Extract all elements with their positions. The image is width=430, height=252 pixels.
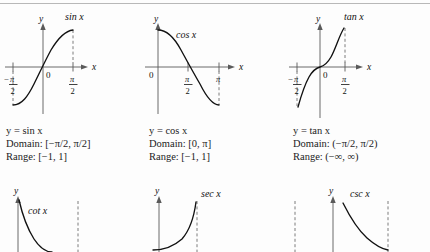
tan-tick-pos-numerator: π: [342, 74, 347, 84]
tan-tick-neg-denominator: 2: [295, 86, 299, 96]
caption-sin-range: Range: [−1, 1]: [6, 150, 143, 163]
figure-cell-tan: y x tan x 0 − π 2 π 2 y = tan x Domain: …: [287, 6, 430, 164]
figure-cell-sec: y sec x: [143, 183, 286, 252]
figure-cell-cot: y cot x: [0, 183, 143, 252]
figure-cell-csc: y csc x: [287, 183, 430, 252]
cos-tick-halfpi-numerator: π: [185, 74, 190, 84]
cos-y-axis-label: y: [153, 14, 159, 24]
plot-cot-svg: y cot x: [0, 183, 143, 252]
caption-cos-equation: y = cos x: [149, 124, 286, 137]
tan-origin-label: 0: [323, 70, 328, 80]
plot-sin: y x sin x 0 − π 2 π 2: [0, 6, 143, 124]
plot-tan: y x tan x 0 − π 2 π 2: [287, 6, 430, 124]
tan-curve-label: tan x: [344, 11, 364, 22]
sin-tick-neg-sign: −: [4, 74, 10, 84]
cos-y-axis-arrowhead: [155, 23, 160, 30]
sin-x-axis-label: x: [91, 62, 97, 72]
figure-cell-cos: y x cos x 0 π 2 π y = cos x Domain: [0, …: [143, 6, 286, 164]
sec-y-axis-label: y: [154, 186, 160, 196]
csc-y-axis-label: y: [328, 186, 334, 196]
sec-y-axis-arrowhead: [156, 196, 161, 203]
sin-tick-pos-numerator: π: [70, 74, 75, 84]
sin-curve-label: sin x: [65, 11, 84, 22]
cos-x-axis-label: x: [238, 62, 244, 72]
caption-cos-range: Range: [−1, 1]: [149, 150, 286, 163]
cos-x-axis-arrowhead: [228, 64, 235, 69]
sin-x-axis-arrowhead: [81, 64, 88, 69]
csc-curve: [343, 203, 388, 250]
tan-y-axis-arrowhead: [317, 23, 322, 30]
plot-tan-svg: y x tan x 0 − π 2 π 2: [287, 6, 430, 124]
plot-sin-svg: y x sin x 0 − π 2 π 2: [0, 6, 143, 124]
tan-x-axis-arrowhead: [356, 64, 363, 69]
csc-curve-label: csc x: [350, 188, 370, 199]
page-top-rule: [0, 3, 430, 4]
tan-tick-pos-denominator: 2: [343, 86, 347, 96]
caption-cos-domain: Domain: [0, π]: [149, 137, 286, 150]
cos-tick-halfpi-denominator: 2: [186, 86, 190, 96]
cos-origin-label: 0: [149, 70, 154, 80]
sin-tick-neg-numerator: π: [10, 74, 15, 84]
cos-tick-pi-label: π: [216, 74, 221, 84]
sin-tick-neg-denominator: 2: [11, 86, 15, 96]
cot-y-axis-label: y: [13, 186, 19, 196]
tan-tick-neg-sign: −: [288, 74, 294, 84]
tan-tick-neg-numerator: π: [294, 74, 299, 84]
caption-tan-domain: Domain: (−π/2, π/2): [293, 137, 430, 150]
sin-tick-pos-denominator: 2: [71, 86, 75, 96]
caption-cos: y = cos x Domain: [0, π] Range: [−1, 1]: [143, 124, 286, 164]
caption-sin-domain: Domain: [−π/2, π/2]: [6, 137, 143, 150]
tan-y-axis-label: y: [315, 14, 321, 24]
sin-origin-label: 0: [46, 70, 51, 80]
plot-cos: y x cos x 0 π 2 π: [143, 6, 286, 124]
sec-curve-label: sec x: [201, 188, 221, 199]
plot-cos-svg: y x cos x 0 π 2 π: [143, 6, 286, 124]
caption-sin-equation: y = sin x: [6, 124, 143, 137]
textbook-figure-page: y x sin x 0 − π 2 π 2 y = sin x Domai: [0, 0, 430, 252]
caption-sin: y = sin x Domain: [−π/2, π/2] Range: [−1…: [0, 124, 143, 164]
cos-curve-label: cos x: [176, 29, 197, 40]
sin-y-axis-arrowhead: [40, 23, 45, 30]
tan-x-axis-label: x: [366, 62, 372, 72]
plot-csc: y csc x: [287, 183, 430, 252]
graph-grid-row-2: y cot x y sec x: [0, 183, 430, 252]
cot-curve-label: cot x: [28, 205, 48, 216]
caption-tan-equation: y = tan x: [293, 124, 430, 137]
tan-curve: [298, 28, 344, 107]
caption-tan-range: Range: (−∞, ∞): [293, 150, 430, 163]
plot-sec: y sec x: [143, 183, 286, 252]
caption-tan: y = tan x Domain: (−π/2, π/2) Range: (−∞…: [287, 124, 430, 164]
plot-cot: y cot x: [0, 183, 143, 252]
csc-y-axis-arrowhead: [330, 196, 335, 203]
sin-y-axis-label: y: [38, 14, 44, 24]
figure-cell-sin: y x sin x 0 − π 2 π 2 y = sin x Domai: [0, 6, 143, 164]
plot-sec-svg: y sec x: [143, 183, 286, 252]
plot-csc-svg: y csc x: [287, 183, 430, 252]
